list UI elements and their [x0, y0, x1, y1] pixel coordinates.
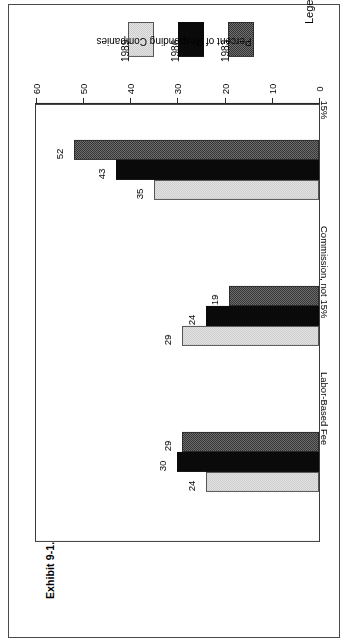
- axis-tick-label: 40: [125, 78, 137, 100]
- value-axis-title: Percent of Responding Companies: [94, 34, 254, 48]
- bar-value-label: 29: [162, 330, 174, 350]
- axis-tick-label: 30: [173, 78, 185, 100]
- bar-1989-labor-based-fee: 24: [206, 472, 319, 492]
- bar-value-label: 24: [186, 476, 198, 496]
- category-label: Labor-Based Fee: [318, 372, 331, 432]
- axis-tick-label: 0: [314, 78, 326, 100]
- axis-tick-label: 50: [78, 78, 90, 100]
- bar-1989-commission-not-15-: 29: [182, 326, 319, 346]
- bar-1986-15-: 43: [116, 160, 319, 180]
- bar-value-label: 30: [158, 456, 170, 476]
- bar-1983-15-: 52: [74, 140, 319, 160]
- bar-group: 293024Labor-Based Fee: [36, 395, 319, 541]
- bar-1983-labor-based-fee: 29: [182, 432, 319, 452]
- bar-1989-15-: 35: [154, 180, 319, 200]
- value-axis: 0102030405060: [35, 80, 320, 104]
- axis-tick-label: 20: [220, 78, 232, 100]
- chart-figure: Legend : 1983 1986 1989 52433515%192429C…: [14, 14, 334, 628]
- bar-1986-commission-not-15-: 24: [206, 306, 319, 326]
- axis-tick-label: 10: [267, 78, 279, 100]
- bar-group: 192429Commission, not 15%: [36, 249, 319, 395]
- bar-1983-commission-not-15-: 19: [229, 286, 319, 306]
- bar-value-label: 29: [162, 436, 174, 456]
- plot-area: 52433515%192429Commission, not 15%293024…: [35, 104, 320, 542]
- bar-group: 52433515%: [36, 103, 319, 249]
- bar-value-label: 52: [54, 144, 66, 164]
- category-label: Commission, not 15%: [318, 226, 331, 286]
- legend-label: Legend :: [302, 0, 316, 24]
- bar-value-label: 43: [96, 164, 108, 184]
- bar-value-label: 35: [134, 184, 146, 204]
- bar-1986-labor-based-fee: 30: [178, 452, 320, 472]
- axis-tick-label: 60: [31, 78, 43, 100]
- exhibit-page: Exhibit 9-1. Trends in Compensating Adve…: [0, 0, 348, 642]
